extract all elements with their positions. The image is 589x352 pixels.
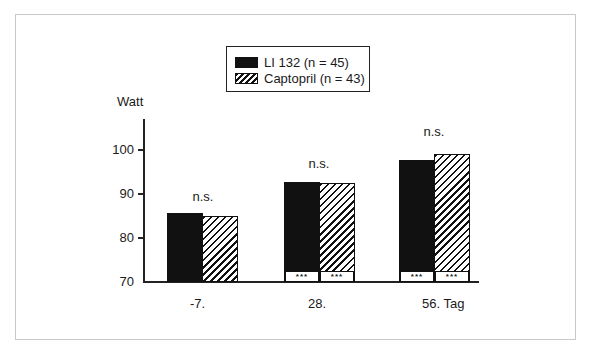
y-axis-title: Watt bbox=[117, 94, 143, 109]
significance-marker: *** bbox=[435, 271, 469, 282]
legend-item-li132: LI 132 (n = 45) bbox=[235, 55, 349, 69]
legend: LI 132 (n = 45) Captopril (n = 43) bbox=[226, 46, 370, 92]
bar-li132-day56 bbox=[399, 160, 435, 282]
bar-captopril-day56 bbox=[434, 154, 470, 282]
bar-captopril-day-minus7 bbox=[202, 216, 238, 282]
bar-captopril-day28 bbox=[319, 183, 355, 282]
bar-li132-day28 bbox=[284, 182, 320, 282]
significance-label: n.s. bbox=[178, 189, 228, 204]
legend-label: Captopril (n = 43) bbox=[264, 71, 365, 86]
significance-marker: *** bbox=[400, 271, 434, 282]
legend-item-captopril: Captopril (n = 43) bbox=[235, 71, 365, 85]
x-tick-label: 56. Tag bbox=[422, 296, 464, 311]
bar-li132-day-minus7 bbox=[167, 213, 203, 282]
y-tick bbox=[138, 193, 143, 195]
x-tick-label: -7. bbox=[190, 296, 205, 311]
significance-marker: *** bbox=[285, 271, 319, 282]
solid-swatch-icon bbox=[235, 57, 258, 68]
legend-label: LI 132 (n = 45) bbox=[264, 55, 349, 70]
significance-label: n.s. bbox=[409, 124, 459, 139]
y-tick-label: 70 bbox=[104, 274, 134, 289]
y-tick-label: 100 bbox=[104, 142, 134, 157]
y-tick bbox=[138, 149, 143, 151]
y-tick-label: 90 bbox=[104, 186, 134, 201]
y-axis bbox=[143, 119, 145, 283]
y-tick bbox=[138, 237, 143, 239]
hatched-swatch-icon bbox=[235, 73, 258, 84]
y-tick-label: 80 bbox=[104, 230, 134, 245]
significance-marker: *** bbox=[320, 271, 354, 282]
x-tick-label: 28. bbox=[308, 296, 326, 311]
significance-label: n.s. bbox=[294, 156, 344, 171]
